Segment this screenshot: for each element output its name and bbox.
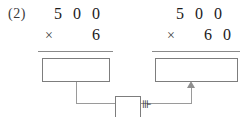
center-relation-box[interactable] bbox=[115, 96, 141, 117]
left-multiplier: 6 bbox=[92, 27, 104, 43]
right-multiplier: 6 0 bbox=[204, 27, 235, 43]
connector-left-horizontal bbox=[76, 103, 116, 104]
right-horizontal-rule bbox=[152, 51, 240, 52]
left-multiplication-operator-icon: × bbox=[45, 29, 53, 43]
problem-number-label: (2) bbox=[8, 7, 26, 21]
relation-mark-icon: ⊪ bbox=[142, 99, 151, 110]
right-multiplication-operator-icon: × bbox=[167, 29, 175, 43]
connector-left-vertical bbox=[76, 82, 77, 103]
left-horizontal-rule bbox=[38, 51, 113, 52]
right-answer-box[interactable] bbox=[155, 58, 238, 82]
right-multiplicand: 5 0 0 bbox=[176, 6, 226, 22]
arrow-up-icon bbox=[187, 81, 195, 88]
worksheet-canvas: (2) 5 0 0 × 6 5 0 0 × 6 0 ⊪ bbox=[0, 0, 252, 117]
left-multiplicand: 5 0 0 bbox=[54, 6, 104, 22]
connector-right-vertical bbox=[191, 87, 192, 104]
left-answer-box[interactable] bbox=[42, 58, 110, 82]
